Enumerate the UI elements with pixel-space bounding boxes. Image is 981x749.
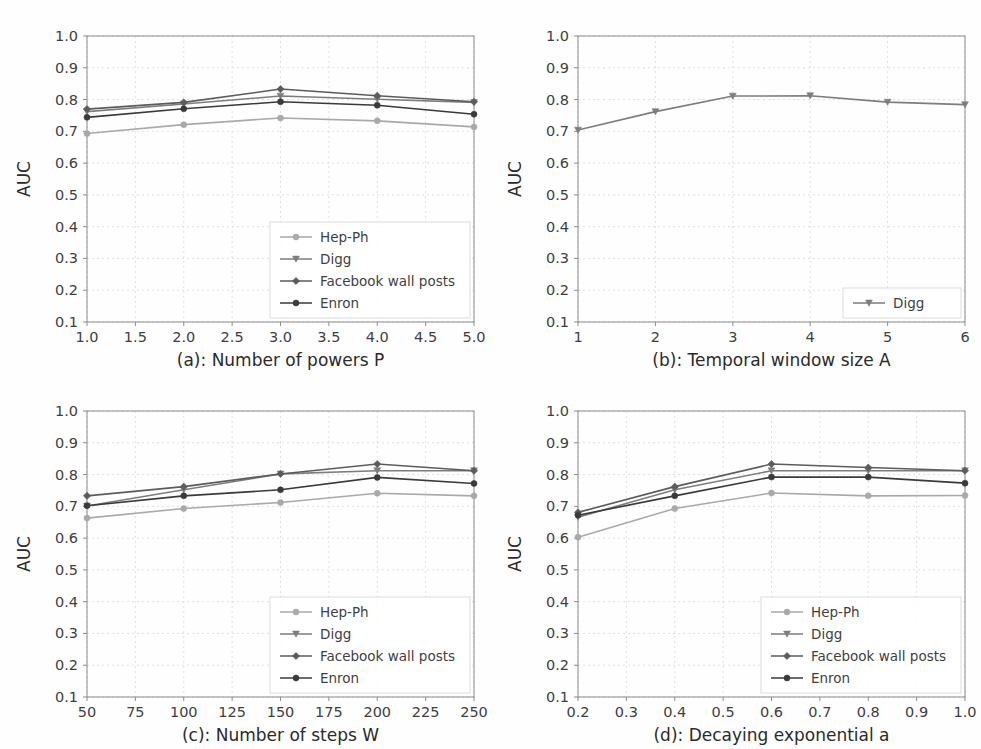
chart-svg-d: 0.10.20.30.40.50.60.70.80.91.00.20.30.40… xyxy=(491,375,981,749)
data-point-marker xyxy=(374,474,380,480)
x-tick-label: 250 xyxy=(460,704,488,720)
legend-label-enron: Enron xyxy=(320,295,359,311)
y-axis-title: AUC xyxy=(505,161,525,197)
data-point-marker xyxy=(293,234,299,240)
y-tick-label: 0.1 xyxy=(55,689,78,705)
y-tick-label: 0.2 xyxy=(546,282,569,298)
y-tick-label: 0.5 xyxy=(546,562,569,578)
chart-panel-a: 0.10.20.30.40.50.60.70.80.91.01.01.52.02… xyxy=(0,0,490,374)
y-tick-label: 0.9 xyxy=(546,60,569,76)
data-point-marker xyxy=(784,609,790,615)
x-tick-label: 0.3 xyxy=(615,704,638,720)
data-point-marker xyxy=(84,515,90,521)
x-tick-label: 0.5 xyxy=(712,704,735,720)
y-tick-label: 0.1 xyxy=(546,689,569,705)
y-tick-label: 0.1 xyxy=(55,314,78,330)
y-tick-label: 0.8 xyxy=(546,92,569,108)
y-tick-label: 0.4 xyxy=(546,219,569,235)
x-tick-label: 75 xyxy=(126,704,144,720)
data-point-marker xyxy=(471,124,477,130)
legend: Hep-PhDiggFacebook wall postsEnron xyxy=(270,222,470,318)
y-tick-label: 0.7 xyxy=(546,123,569,139)
y-tick-label: 0.6 xyxy=(55,155,78,171)
x-tick-label: 0.8 xyxy=(857,704,880,720)
chart-panel-d: 0.10.20.30.40.50.60.70.80.91.00.20.30.40… xyxy=(491,375,981,749)
data-point-marker xyxy=(784,675,790,681)
x-tick-label: 0.2 xyxy=(566,704,589,720)
legend-label-facebook: Facebook wall posts xyxy=(320,648,455,664)
data-point-marker xyxy=(471,493,477,499)
y-tick-label: 0.2 xyxy=(546,657,569,673)
y-axis-title: AUC xyxy=(505,536,525,572)
y-tick-label: 0.2 xyxy=(55,657,78,673)
legend-label-hep_ph: Hep-Ph xyxy=(320,229,369,245)
y-tick-label: 0.7 xyxy=(55,498,78,514)
data-point-marker xyxy=(278,99,284,105)
x-tick-label: 3.5 xyxy=(317,329,340,345)
legend: Hep-PhDiggFacebook wall postsEnron xyxy=(761,597,961,693)
x-tick-label: 0.7 xyxy=(808,704,831,720)
x-tick-label: 5 xyxy=(883,329,892,345)
figure-canvas: 0.10.20.30.40.50.60.70.80.91.01.01.52.02… xyxy=(0,0,981,749)
x-axis-title: (a): Number of powers P xyxy=(177,350,384,370)
data-point-marker xyxy=(84,503,90,509)
y-tick-label: 0.6 xyxy=(55,530,78,546)
x-tick-label: 125 xyxy=(218,704,246,720)
x-tick-label: 4.0 xyxy=(366,329,389,345)
data-point-marker xyxy=(374,490,380,496)
legend-label-digg: Digg xyxy=(893,295,924,311)
data-point-marker xyxy=(181,506,187,512)
x-tick-label: 0.4 xyxy=(663,704,686,720)
x-axis-title: (d): Decaying exponential a xyxy=(653,725,889,745)
legend-label-digg: Digg xyxy=(811,626,842,642)
data-point-marker xyxy=(84,131,90,137)
legend-label-digg: Digg xyxy=(320,626,351,642)
y-tick-label: 0.7 xyxy=(55,123,78,139)
x-tick-label: 50 xyxy=(78,704,96,720)
data-point-marker xyxy=(575,512,581,518)
y-tick-label: 0.5 xyxy=(55,187,78,203)
data-point-marker xyxy=(293,609,299,615)
data-point-marker xyxy=(181,106,187,112)
x-tick-label: 2 xyxy=(651,329,660,345)
data-point-marker xyxy=(575,534,581,540)
data-point-marker xyxy=(672,506,678,512)
x-tick-label: 5.0 xyxy=(462,329,485,345)
x-tick-label: 4.5 xyxy=(414,329,437,345)
y-tick-label: 0.6 xyxy=(546,530,569,546)
x-tick-label: 4 xyxy=(806,329,815,345)
x-tick-label: 100 xyxy=(170,704,198,720)
x-tick-label: 0.9 xyxy=(905,704,928,720)
legend-label-hep_ph: Hep-Ph xyxy=(811,604,860,620)
chart-panel-b: 0.10.20.30.40.50.60.70.80.91.0123456AUC(… xyxy=(491,0,981,374)
legend-label-enron: Enron xyxy=(320,670,359,686)
y-axis-title: AUC xyxy=(14,161,34,197)
y-tick-label: 0.9 xyxy=(55,60,78,76)
data-point-marker xyxy=(769,474,775,480)
y-tick-label: 0.5 xyxy=(55,562,78,578)
y-tick-label: 0.5 xyxy=(546,187,569,203)
x-tick-label: 2.0 xyxy=(172,329,195,345)
y-tick-label: 0.4 xyxy=(55,594,78,610)
data-point-marker xyxy=(865,493,871,499)
data-point-marker xyxy=(84,114,90,120)
x-tick-label: 1.5 xyxy=(124,329,147,345)
x-axis-title: (c): Number of steps W xyxy=(182,725,379,745)
y-tick-label: 0.1 xyxy=(546,314,569,330)
data-point-marker xyxy=(865,474,871,480)
legend-label-facebook: Facebook wall posts xyxy=(320,273,455,289)
y-tick-label: 0.9 xyxy=(55,435,78,451)
y-tick-label: 0.8 xyxy=(55,467,78,483)
y-tick-label: 1.0 xyxy=(55,28,78,44)
x-tick-label: 3.0 xyxy=(269,329,292,345)
y-tick-label: 0.8 xyxy=(55,92,78,108)
y-tick-label: 0.7 xyxy=(546,498,569,514)
x-tick-label: 1.0 xyxy=(953,704,976,720)
x-tick-label: 150 xyxy=(267,704,295,720)
y-tick-label: 0.8 xyxy=(546,467,569,483)
data-point-marker xyxy=(471,111,477,117)
data-point-marker xyxy=(278,500,284,506)
data-point-marker xyxy=(374,102,380,108)
x-axis-title: (b): Temporal window size A xyxy=(652,350,891,370)
y-tick-label: 1.0 xyxy=(55,403,78,419)
